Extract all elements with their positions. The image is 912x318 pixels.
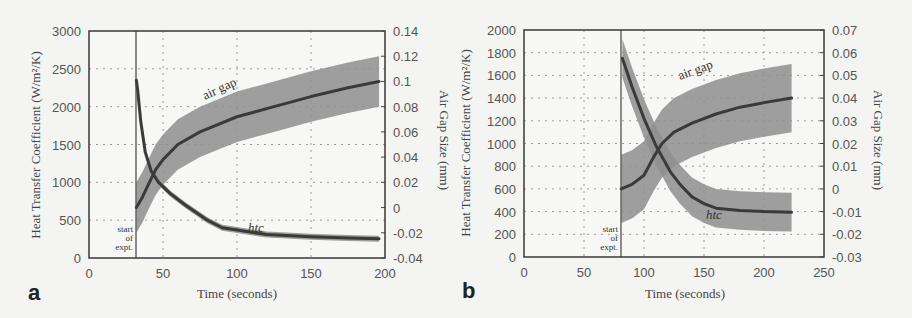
- y2-tick-label: -0.01: [832, 205, 862, 220]
- panel-label-a: a: [28, 280, 41, 305]
- y2-tick-label: -0.02: [393, 226, 423, 241]
- x-tick-label: 150: [693, 265, 715, 280]
- y-tick-label: 2500: [52, 62, 81, 77]
- x-tick-label: 250: [813, 265, 835, 280]
- y-tick-label: 600: [494, 182, 516, 197]
- y2-tick-label: 0.02: [393, 175, 418, 190]
- y-tick-label: 0: [74, 251, 81, 266]
- y-tick-label: 800: [494, 159, 516, 174]
- htc-label-b: htc: [706, 207, 722, 222]
- x-tick-label: 50: [577, 265, 591, 280]
- start-label-a-3: expt.: [115, 242, 133, 252]
- y2-tick-label: 0.02: [832, 137, 857, 152]
- y2-tick-label: 0.05: [832, 68, 857, 83]
- y2-tick-label: 0: [832, 182, 839, 197]
- x-tick-label: 0: [520, 265, 527, 280]
- y-tick-label: 0: [509, 250, 516, 265]
- y-tick-label: 1400: [487, 91, 516, 106]
- x-tick-label: 200: [374, 266, 396, 281]
- y-tick-label: 1000: [487, 137, 516, 152]
- y-tick-label: 200: [494, 227, 516, 242]
- y2-tick-label: 0.04: [393, 150, 418, 165]
- y2-tick-label: -0.02: [832, 227, 862, 242]
- y2-tick-label: 0.01: [832, 159, 857, 174]
- x-tick-label: 150: [300, 266, 322, 281]
- y2-axis-title-a: Air Gap Size (mm): [437, 90, 452, 190]
- x-tick-label: 50: [156, 266, 170, 281]
- x-axis-title-a: Time (seconds): [197, 286, 277, 301]
- start-label-b-3: expt.: [600, 242, 618, 252]
- y-axis-title-a: Heat Transfer Coefficient (W/m²/K): [28, 51, 43, 238]
- y-tick-label: 2000: [52, 100, 81, 115]
- y2-tick-label: 0.08: [393, 100, 418, 115]
- y2-tick-label: 0.07: [832, 23, 857, 38]
- y2-tick-label: 0.03: [832, 114, 857, 129]
- y2-tick-label: 0.04: [832, 91, 857, 106]
- chart-panel-b: 0501001502002500200400600800100012001400…: [458, 23, 886, 303]
- x-tick-label: 100: [633, 265, 655, 280]
- y2-tick-label: 0: [393, 201, 400, 216]
- x-tick-label: 100: [226, 266, 248, 281]
- y-tick-label: 2000: [487, 23, 516, 38]
- y-tick-label: 1800: [487, 46, 516, 61]
- y2-tick-label: -0.03: [832, 250, 862, 265]
- y2-tick-label: 0.06: [393, 125, 418, 140]
- y-tick-label: 1500: [52, 138, 81, 153]
- y-tick-label: 400: [494, 205, 516, 220]
- y2-tick-label: 0.12: [393, 49, 418, 64]
- y2-tick-label: -0.04: [393, 251, 423, 266]
- x-tick-label: 0: [85, 266, 92, 281]
- y2-tick-label: 0.14: [393, 24, 418, 39]
- y-tick-label: 1200: [487, 114, 516, 129]
- htc-label-a: htc: [248, 220, 264, 235]
- x-tick-label: 200: [753, 265, 775, 280]
- y-tick-label: 500: [59, 213, 81, 228]
- y2-tick-label: 0.06: [832, 46, 857, 61]
- y2-tick-label: 0.1: [393, 74, 411, 89]
- y2-axis-title-b: Air Gap Size (mm): [871, 90, 886, 190]
- y-tick-label: 3000: [52, 24, 81, 39]
- chart-panel-a: 050100150200050010001500200025003000-0.0…: [28, 24, 452, 305]
- panel-label-b: b: [462, 278, 475, 303]
- figure: 050100150200050010001500200025003000-0.0…: [0, 0, 912, 318]
- y-axis-title-b: Heat Transfer Coefficient (W/m²/K): [458, 49, 473, 236]
- x-axis-title-b: Time (seconds): [645, 286, 725, 301]
- y-tick-label: 1600: [487, 68, 516, 83]
- y-tick-label: 1000: [52, 175, 81, 190]
